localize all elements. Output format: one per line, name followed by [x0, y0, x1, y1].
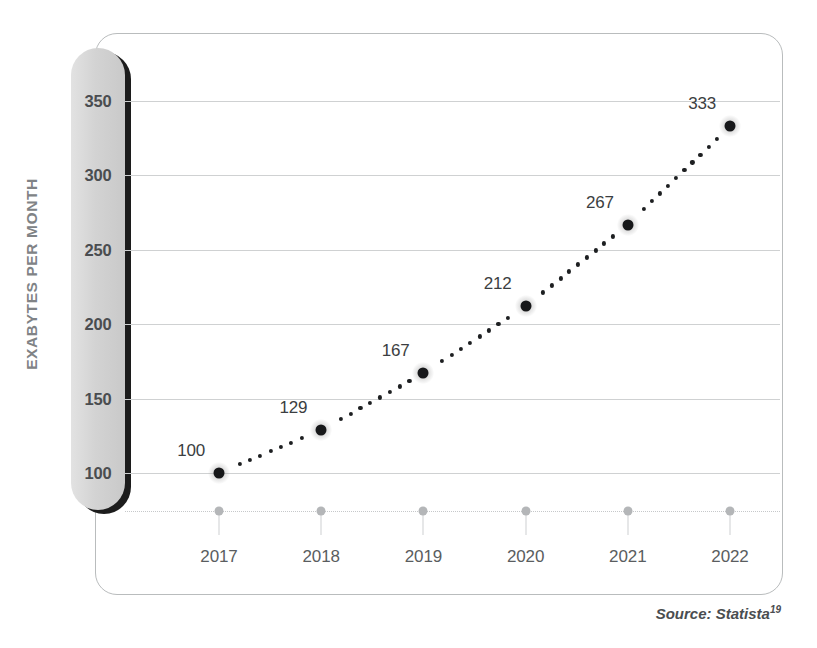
- line-dot: [398, 384, 402, 388]
- line-dot: [706, 145, 710, 149]
- gridline: [125, 175, 780, 176]
- line-dot: [349, 411, 353, 415]
- x-tick-label: 2018: [302, 547, 339, 567]
- line-dot: [658, 191, 662, 195]
- line-dot: [496, 322, 500, 326]
- y-tick-label: 200: [71, 315, 125, 334]
- y-axis-title: EXABYTES PER MONTH: [23, 154, 41, 394]
- y-tick-label: 300: [71, 166, 125, 185]
- line-dot: [388, 390, 392, 394]
- data-point-marker[interactable]: [316, 424, 327, 435]
- line-dot: [238, 462, 242, 466]
- line-dot: [459, 347, 463, 351]
- x-tick-label: 2017: [200, 547, 237, 567]
- y-tick-label: 100: [71, 464, 125, 483]
- y-tick-label: 150: [71, 389, 125, 408]
- data-point-marker[interactable]: [520, 301, 531, 312]
- line-dot: [339, 417, 343, 421]
- line-dot: [487, 328, 491, 332]
- line-dot: [611, 234, 615, 238]
- x-tick-dot: [521, 507, 530, 516]
- gridline: [125, 324, 780, 325]
- line-dot: [602, 241, 606, 245]
- y-tick-label: 250: [71, 240, 125, 259]
- line-dot: [358, 406, 362, 410]
- line-dot: [715, 137, 719, 141]
- chart-figure: EXABYTES PER MONTH 350300250200150100 20…: [0, 0, 817, 648]
- line-dot: [258, 453, 262, 457]
- line-dot: [666, 184, 670, 188]
- y-axis-band: [71, 48, 125, 510]
- line-dot: [567, 269, 571, 273]
- data-point-value-label: 267: [586, 193, 614, 213]
- plot-area: 201720182019202020212022 100129167212267…: [125, 33, 783, 595]
- line-dot: [550, 283, 554, 287]
- line-dot: [407, 379, 411, 383]
- data-point-marker[interactable]: [418, 368, 429, 379]
- x-tick-dot: [623, 507, 632, 516]
- line-dot: [674, 176, 678, 180]
- data-point-value-label: 167: [382, 341, 410, 361]
- line-dot: [642, 207, 646, 211]
- data-point-value-label: 100: [177, 441, 205, 461]
- line-dot: [541, 290, 545, 294]
- x-tick-dot: [726, 507, 735, 516]
- line-dot: [248, 458, 252, 462]
- line-dot: [585, 255, 589, 259]
- line-dot: [440, 359, 444, 363]
- line-dot: [698, 153, 702, 157]
- gridline: [125, 101, 780, 102]
- line-dot: [576, 262, 580, 266]
- line-dot: [279, 445, 283, 449]
- source-superscript: 19: [770, 604, 781, 615]
- x-tick-label: 2020: [507, 547, 544, 567]
- gridline: [125, 250, 780, 251]
- x-tick-dot: [215, 507, 224, 516]
- data-point-value-label: 333: [688, 94, 716, 114]
- line-dot: [506, 316, 510, 320]
- line-dot: [299, 436, 303, 440]
- y-tick-label: 350: [71, 92, 125, 111]
- data-point-marker[interactable]: [622, 219, 633, 230]
- line-dot: [449, 353, 453, 357]
- data-point-value-label: 129: [279, 398, 307, 418]
- source-note: Source: Statista19: [656, 604, 781, 622]
- line-dot: [682, 168, 686, 172]
- x-tick-label: 2021: [609, 547, 646, 567]
- source-label: Source: Statista: [656, 605, 770, 622]
- x-tick-label: 2022: [711, 547, 748, 567]
- line-dot: [558, 276, 562, 280]
- line-dot: [650, 199, 654, 203]
- line-dot: [478, 334, 482, 338]
- data-point-marker[interactable]: [725, 121, 736, 132]
- gridline: [125, 399, 780, 400]
- line-dot: [593, 248, 597, 252]
- line-dot: [368, 401, 372, 405]
- data-point-value-label: 212: [484, 274, 512, 294]
- x-tick-label: 2019: [405, 547, 442, 567]
- line-dot: [268, 449, 272, 453]
- line-dot: [468, 341, 472, 345]
- data-point-marker[interactable]: [214, 468, 225, 479]
- x-tick-dot: [419, 507, 428, 516]
- x-tick-dot: [317, 507, 326, 516]
- line-dot: [289, 440, 293, 444]
- line-dot: [690, 160, 694, 164]
